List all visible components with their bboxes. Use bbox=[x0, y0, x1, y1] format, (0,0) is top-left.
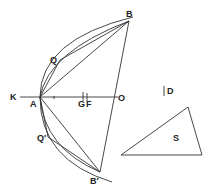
chord-a-qprime bbox=[40, 97, 48, 137]
label-f: F bbox=[86, 99, 92, 109]
label-o: O bbox=[118, 93, 125, 103]
parabola-diagram: K A Q Q′ B B′ O G F D S bbox=[0, 0, 213, 194]
triangle-s bbox=[121, 107, 202, 155]
label-q-prime: Q′ bbox=[37, 133, 46, 143]
label-b-prime: B′ bbox=[90, 176, 99, 186]
label-s: S bbox=[173, 133, 179, 143]
label-b: B bbox=[126, 9, 133, 19]
chord-q-b bbox=[60, 21, 129, 60]
label-g: G bbox=[78, 99, 85, 109]
chord-qprime-bprime bbox=[48, 137, 100, 172]
label-k: K bbox=[10, 92, 17, 102]
label-q: Q bbox=[50, 55, 57, 65]
label-a: A bbox=[30, 99, 37, 109]
label-d: D bbox=[167, 86, 174, 96]
